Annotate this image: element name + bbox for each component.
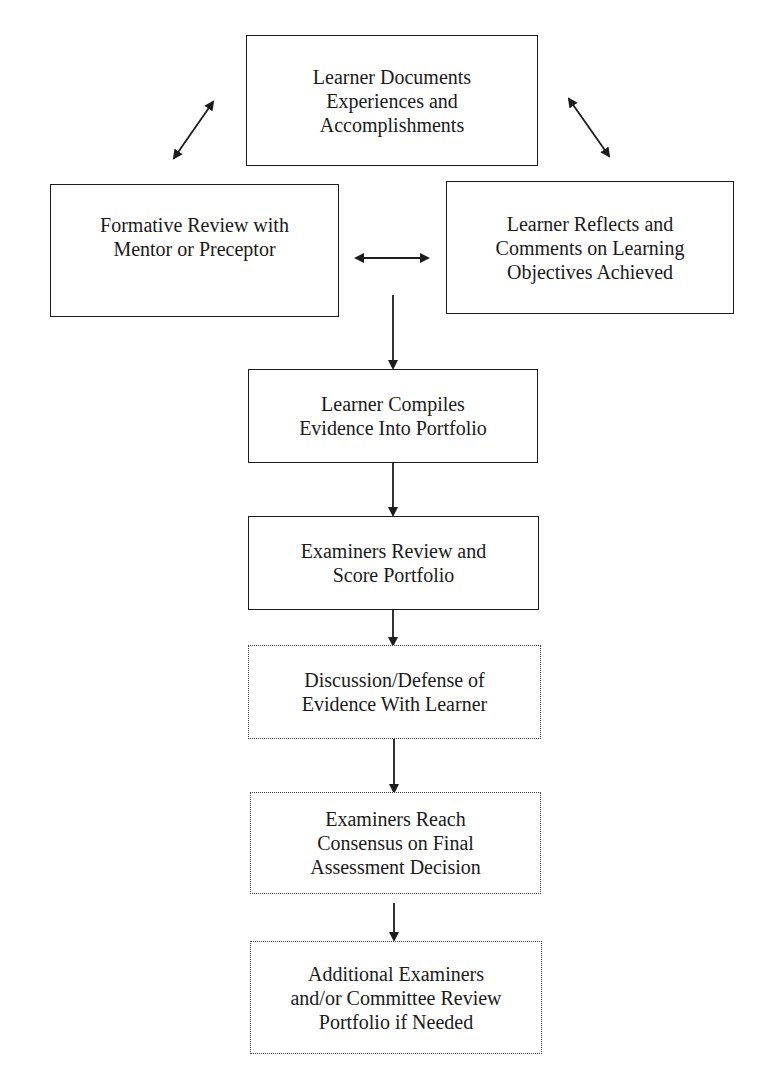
- node-examiners-consensus: Examiners Reach Consensus on Final Asses…: [250, 792, 541, 894]
- double-arrow-documents-formative: [174, 102, 213, 158]
- node-label: Learner Documents Experiences and Accomp…: [313, 65, 471, 137]
- node-learner-documents: Learner Documents Experiences and Accomp…: [246, 35, 538, 166]
- node-formative-review: Formative Review with Mentor or Precepto…: [50, 184, 339, 317]
- node-learner-compiles: Learner Compiles Evidence Into Portfolio: [248, 369, 538, 463]
- node-label: Examiners Review and Score Portfolio: [301, 539, 487, 587]
- node-label: Examiners Reach Consensus on Final Asses…: [310, 807, 481, 879]
- node-discussion-defense: Discussion/Defense of Evidence With Lear…: [248, 645, 541, 739]
- node-additional-examiners: Additional Examiners and/or Committee Re…: [250, 941, 542, 1054]
- portfolio-assessment-flowchart: Learner Documents Experiences and Accomp…: [0, 0, 775, 1081]
- node-label: Learner Compiles Evidence Into Portfolio: [299, 392, 487, 440]
- node-learner-reflects: Learner Reflects and Comments on Learnin…: [446, 181, 734, 314]
- node-examiners-review: Examiners Review and Score Portfolio: [248, 516, 539, 610]
- node-label: Learner Reflects and Comments on Learnin…: [496, 212, 685, 284]
- node-label: Formative Review with Mentor or Precepto…: [100, 213, 289, 261]
- node-label: Discussion/Defense of Evidence With Lear…: [302, 668, 487, 716]
- node-label: Additional Examiners and/or Committee Re…: [290, 962, 501, 1034]
- double-arrow-documents-reflects: [569, 99, 609, 156]
